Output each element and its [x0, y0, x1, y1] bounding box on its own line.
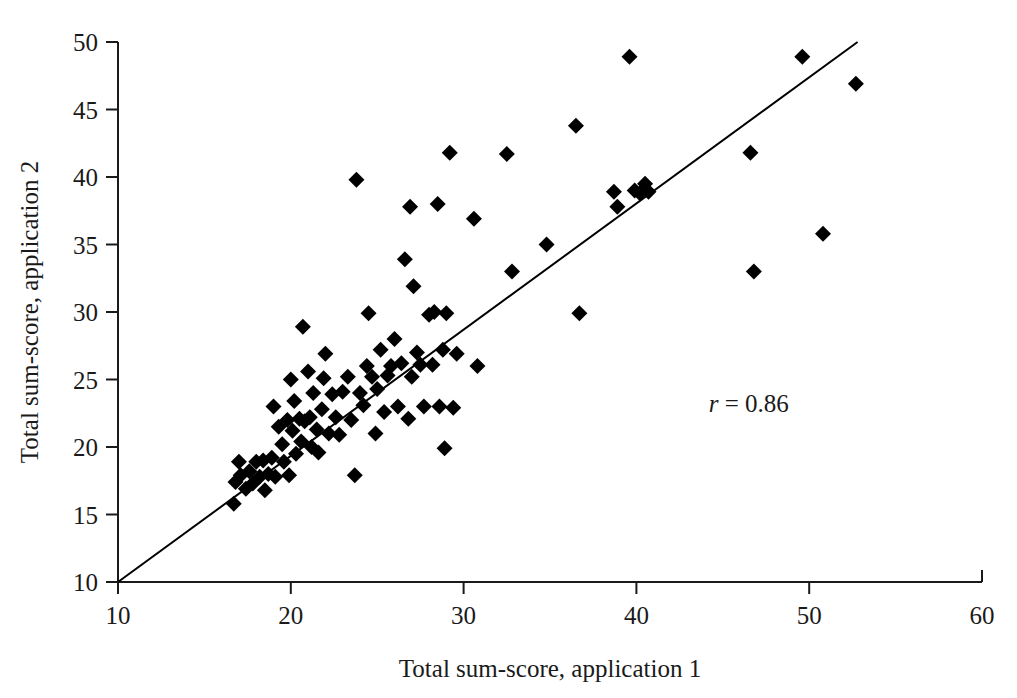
- data-point: [848, 76, 864, 92]
- data-point: [435, 342, 451, 358]
- data-point: [504, 264, 520, 280]
- data-point: [449, 346, 465, 362]
- data-point: [390, 399, 406, 415]
- y-tick-label-45: 45: [73, 97, 98, 124]
- data-point: [606, 184, 622, 200]
- data-point: [274, 436, 290, 452]
- data-point: [347, 467, 363, 483]
- data-points: [226, 49, 864, 512]
- y-tick-label-10: 10: [73, 569, 98, 596]
- x-tick-label-50: 50: [797, 602, 822, 629]
- scatter-plot-figure: 101520253035404550102030405060Total sum-…: [0, 0, 1017, 698]
- data-point: [571, 305, 587, 321]
- data-point: [400, 411, 416, 427]
- data-point: [409, 345, 425, 361]
- axis-labels: 101520253035404550102030405060Total sum-…: [16, 29, 995, 682]
- data-point: [466, 211, 482, 227]
- data-point: [539, 237, 555, 253]
- data-point: [352, 385, 368, 401]
- data-point: [283, 372, 299, 388]
- y-tick-label-25: 25: [73, 367, 98, 394]
- data-point: [405, 278, 421, 294]
- x-tick-label-20: 20: [278, 602, 303, 629]
- y-axis-title: Total sum-score, application 2: [16, 161, 43, 463]
- data-point: [445, 400, 461, 416]
- data-point: [416, 399, 432, 415]
- data-point: [431, 399, 447, 415]
- data-point: [331, 427, 347, 443]
- data-point: [300, 363, 316, 379]
- data-point: [397, 251, 413, 267]
- axis-spine: [118, 42, 982, 582]
- data-point: [348, 172, 364, 188]
- data-point: [742, 145, 758, 161]
- x-axis-title: Total sum-score, application 1: [399, 655, 701, 682]
- data-point: [438, 305, 454, 321]
- y-tick-label-50: 50: [73, 29, 98, 56]
- x-tick-label-60: 60: [970, 602, 995, 629]
- data-point: [621, 49, 637, 65]
- data-point: [746, 264, 762, 280]
- y-tick-label-40: 40: [73, 164, 98, 191]
- y-tick-label-15: 15: [73, 502, 98, 529]
- data-point: [499, 146, 515, 162]
- data-point: [430, 196, 446, 212]
- data-point: [424, 357, 440, 373]
- y-tick-label-20: 20: [73, 434, 98, 461]
- data-point: [340, 369, 356, 385]
- data-point: [266, 399, 282, 415]
- data-point: [305, 385, 321, 401]
- data-point: [343, 412, 359, 428]
- correlation-annotation: r = 0.86: [709, 390, 789, 417]
- data-point: [469, 358, 485, 374]
- data-point: [226, 496, 242, 512]
- data-point: [328, 409, 344, 425]
- data-point: [373, 342, 389, 358]
- correlation-equals: =: [718, 390, 745, 417]
- correlation-label: r = 0.86: [709, 390, 789, 417]
- data-point: [402, 199, 418, 215]
- data-point: [815, 226, 831, 242]
- data-point: [286, 393, 302, 409]
- data-point: [317, 346, 333, 362]
- scatter-plot-canvas: 101520253035404550102030405060Total sum-…: [0, 0, 1017, 698]
- axes: [106, 42, 982, 594]
- data-point: [794, 49, 810, 65]
- correlation-symbol: r: [709, 390, 719, 417]
- x-tick-label-30: 30: [451, 602, 476, 629]
- data-point: [442, 145, 458, 161]
- correlation-value: 0.86: [745, 390, 789, 417]
- data-point: [437, 440, 453, 456]
- data-point: [314, 401, 330, 417]
- x-tick-label-10: 10: [106, 602, 131, 629]
- data-point: [295, 319, 311, 335]
- data-point: [376, 404, 392, 420]
- data-point: [361, 305, 377, 321]
- data-point: [386, 331, 402, 347]
- data-point: [231, 454, 247, 470]
- data-point: [316, 370, 332, 386]
- y-tick-label-30: 30: [73, 299, 98, 326]
- y-tick-label-35: 35: [73, 232, 98, 259]
- data-point: [568, 118, 584, 134]
- data-point: [281, 467, 297, 483]
- data-point: [367, 426, 383, 442]
- x-tick-label-40: 40: [624, 602, 649, 629]
